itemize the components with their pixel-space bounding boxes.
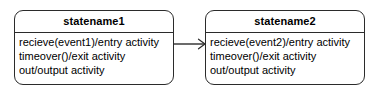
- state-title: statename2: [206, 11, 364, 32]
- state-node-statename1[interactable]: statename1 recieve(event1)/entry activit…: [14, 10, 174, 85]
- state-body: recieve(event2)/entry activity timeover(…: [206, 33, 364, 84]
- state-diagram-canvas: statename1 recieve(event1)/entry activit…: [0, 0, 377, 94]
- state-body: recieve(event1)/entry activity timeover(…: [15, 33, 173, 84]
- state-activity-line: recieve(event2)/entry activity: [210, 35, 350, 49]
- state-activity-line: timeover()/exit activity: [19, 49, 125, 63]
- state-activity-line: out/output activity: [19, 63, 105, 77]
- transition-arrow-state1-to-state2[interactable]: [173, 36, 207, 52]
- state-node-statename2[interactable]: statename2 recieve(event2)/entry activit…: [205, 10, 365, 85]
- state-activity-line: timeover()/exit activity: [210, 49, 316, 63]
- state-title: statename1: [15, 11, 173, 32]
- state-activity-line: out/output activity: [210, 63, 296, 77]
- state-activity-line: recieve(event1)/entry activity: [19, 35, 159, 49]
